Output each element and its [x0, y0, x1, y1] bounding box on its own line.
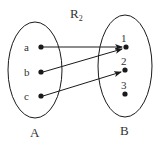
element-a-label: a	[24, 41, 29, 53]
element-b-dot	[38, 69, 43, 74]
element-1-dot	[123, 44, 128, 49]
element-b-label: b	[24, 66, 30, 78]
element-3-dot	[122, 91, 127, 96]
element-3-label: 3	[121, 79, 127, 91]
element-a-dot	[38, 44, 43, 49]
element-2-label: 2	[121, 55, 127, 67]
set-a-ellipse	[8, 22, 62, 118]
relation-diagram: R2 a b c A 1 2 3 B	[0, 0, 158, 143]
arrow-b-to-1	[43, 49, 122, 72]
element-c-label: c	[24, 90, 29, 102]
diagram-title: R2	[70, 6, 83, 23]
set-b-label: B	[120, 123, 129, 138]
arrow-c-to-2	[43, 72, 121, 96]
element-c-dot	[38, 93, 43, 98]
set-a-label: A	[30, 125, 40, 140]
element-1-label: 1	[121, 32, 127, 44]
element-2-dot	[122, 67, 127, 72]
